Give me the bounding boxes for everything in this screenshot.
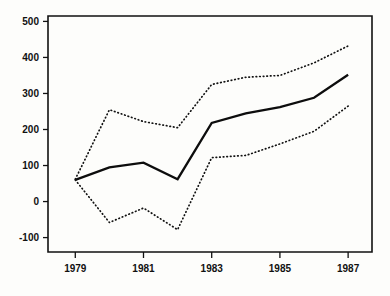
y-tick-label: 100 (22, 160, 39, 171)
series-line-upper-bound (75, 46, 348, 179)
x-tick-label: 1983 (201, 263, 224, 274)
y-tick-label: 300 (22, 88, 39, 99)
y-tick-label: 200 (22, 124, 39, 135)
line-chart: -1000100200300400500 1979198119831985198… (0, 0, 390, 296)
plot-frame (48, 16, 372, 252)
x-tick-label: 1985 (269, 263, 292, 274)
y-tick-label: -100 (19, 232, 39, 243)
x-axis-tick-labels: 19791981198319851987 (64, 263, 360, 274)
y-tick-label: 400 (22, 52, 39, 63)
series-group (75, 46, 348, 230)
chart-figure: -1000100200300400500 1979198119831985198… (0, 0, 390, 296)
y-tick-label: 0 (33, 196, 39, 207)
y-tick-label: 500 (22, 16, 39, 27)
x-tick-label: 1981 (132, 263, 155, 274)
x-axis-ticks (75, 252, 348, 258)
y-axis-tick-labels: -1000100200300400500 (19, 16, 39, 243)
x-tick-label: 1979 (64, 263, 87, 274)
x-tick-label: 1987 (337, 263, 360, 274)
series-line-central-estimate (75, 75, 348, 180)
